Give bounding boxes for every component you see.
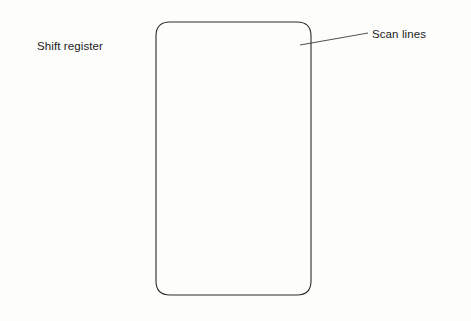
scan-line-diagram (0, 0, 471, 321)
scan-lines-pointer (300, 33, 368, 45)
display-panel-outline (156, 22, 311, 295)
diagram-canvas: Shift register Scan lines (0, 0, 471, 321)
